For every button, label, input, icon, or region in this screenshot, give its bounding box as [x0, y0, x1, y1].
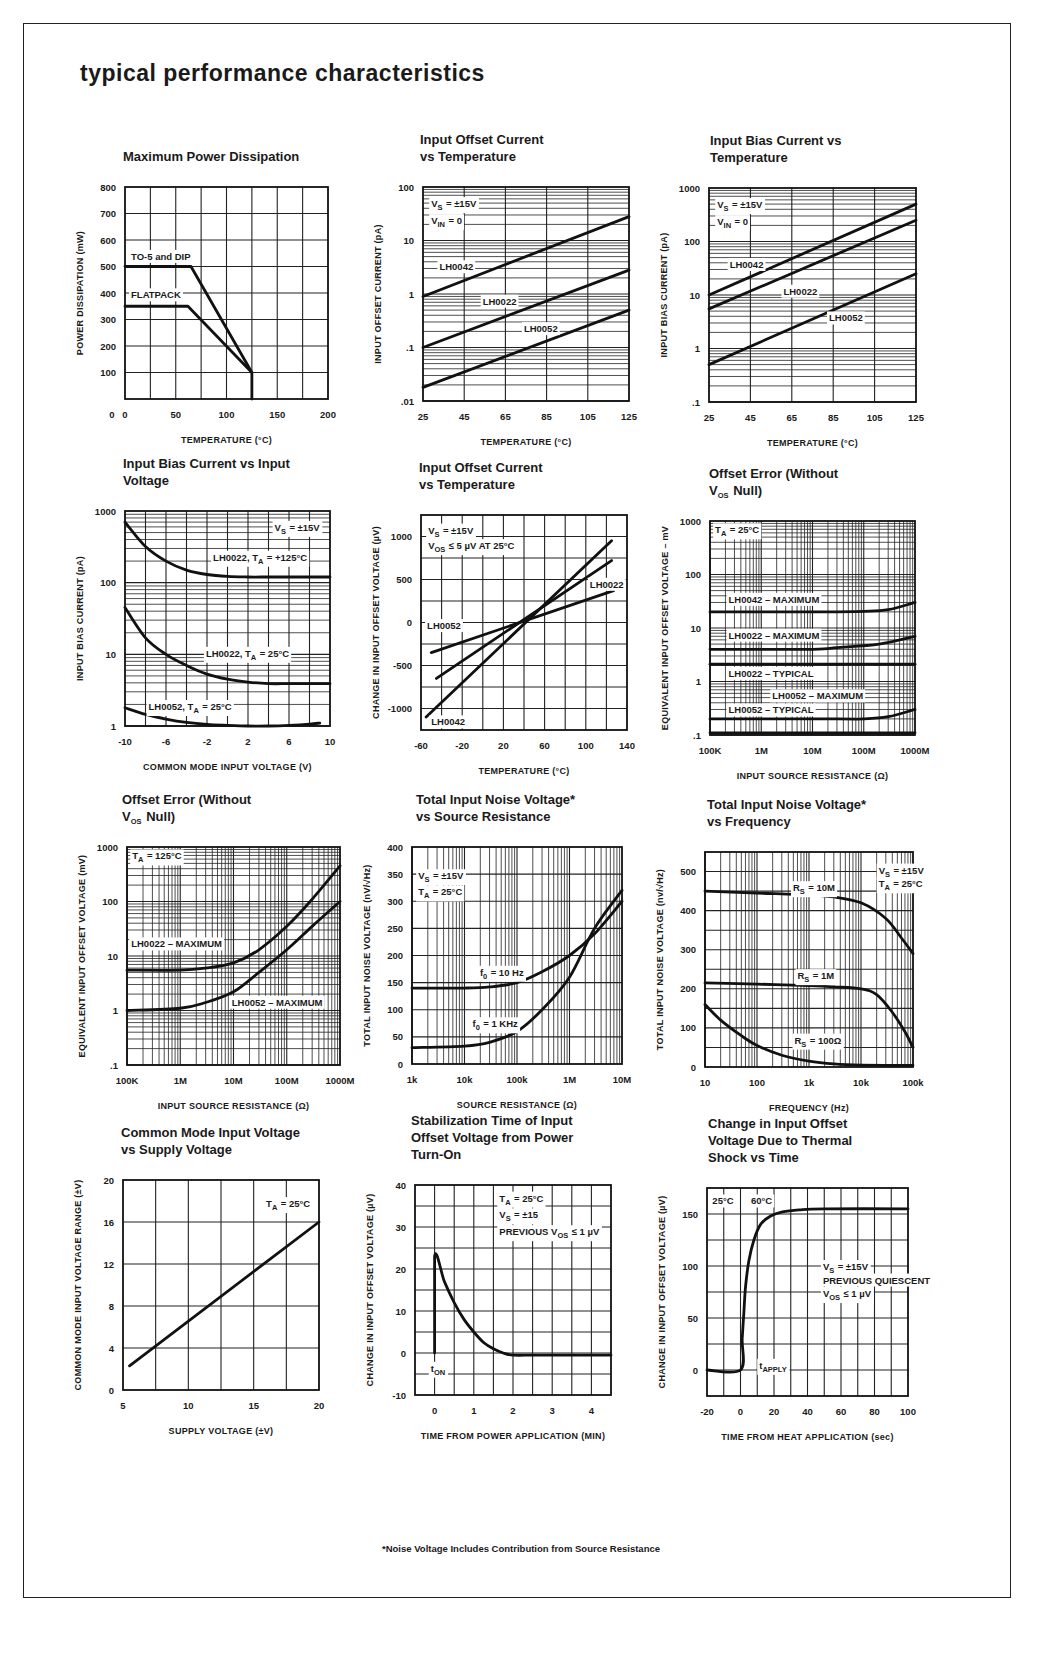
- page-title: typical performance characteristics: [80, 60, 485, 87]
- footnote: *Noise Voltage Includes Contribution fro…: [0, 1543, 1042, 1554]
- page-frame: [23, 23, 1011, 1598]
